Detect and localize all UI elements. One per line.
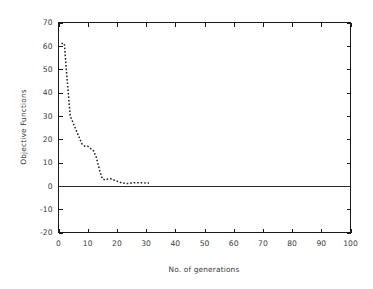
y-tick-label: 50 <box>43 65 53 74</box>
y-tick-label: 60 <box>43 42 53 51</box>
x-tick-label: 30 <box>141 239 151 248</box>
y-tick-label: 30 <box>43 112 53 121</box>
x-tick-label: 70 <box>258 239 268 248</box>
objective-functions-line-chart: 0102030405060708090100 -20-1001020304050… <box>0 0 373 289</box>
x-tick-label: 90 <box>316 239 326 248</box>
x-tick-label: 60 <box>229 239 239 248</box>
x-axis-title: No. of generations <box>169 265 240 274</box>
y-tick-label: -10 <box>40 205 53 214</box>
y-tick-label: 20 <box>43 135 53 144</box>
y-tick-label: 40 <box>43 88 53 97</box>
y-axis-title: Objective Functions <box>19 89 28 165</box>
y-tick-label: 70 <box>43 18 53 27</box>
x-tick-label: 20 <box>112 239 122 248</box>
x-tick-label: 50 <box>200 239 210 248</box>
x-tick-label: 40 <box>170 239 180 248</box>
x-tick-label: 0 <box>56 239 61 248</box>
x-tick-label: 80 <box>287 239 297 248</box>
x-tick-label: 100 <box>343 239 358 248</box>
y-tick-label: -20 <box>40 228 53 237</box>
x-tick-label: 10 <box>83 239 93 248</box>
y-tick-label: 0 <box>48 182 53 191</box>
y-tick-label: 10 <box>43 158 53 167</box>
